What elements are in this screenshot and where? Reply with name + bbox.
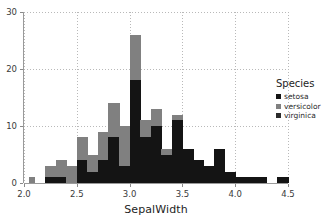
x-tick-mark: [288, 184, 289, 187]
x-tick-label: 4.0: [228, 190, 242, 199]
legend-item-label: virginica: [284, 112, 316, 120]
legend-item-label: versicolor: [284, 103, 321, 111]
legend-item-label: setosa: [284, 93, 309, 101]
y-tick-label: 10: [0, 122, 17, 131]
x-axis-label: SepalWidth: [24, 203, 288, 216]
x-tick-label: 3.0: [123, 190, 137, 199]
y-axis-line: [23, 12, 24, 183]
y-tick-label: 20: [0, 65, 17, 74]
x-tick-label: 3.5: [176, 190, 190, 199]
x-tick-mark: [182, 184, 183, 187]
legend-item-setosa[interactable]: setosa: [276, 93, 325, 101]
legend-swatch-icon: [276, 113, 281, 118]
x-tick-label: 2.0: [17, 190, 31, 199]
legend-items: setosaversicolorvirginica: [276, 93, 325, 120]
x-tick-label: 4.5: [281, 190, 295, 199]
x-tick-mark: [77, 184, 78, 187]
y-tick-mark: [20, 126, 23, 127]
x-tick-mark: [24, 184, 25, 187]
x-axis-line: [24, 183, 288, 184]
y-tick-mark: [20, 183, 23, 184]
y-tick-label: 30: [0, 8, 17, 17]
legend-swatch-icon: [276, 104, 281, 109]
x-tick-label: 2.5: [70, 190, 84, 199]
legend-title: Species: [276, 78, 325, 89]
y-tick-mark: [20, 69, 23, 70]
x-tick-mark: [235, 184, 236, 187]
legend: Species setosaversicolorvirginica: [276, 78, 325, 122]
x-tick-mark: [130, 184, 131, 187]
bar-segment-versicolor: [135, 35, 141, 81]
bar-segment-versicolor: [177, 115, 183, 121]
bar-segment-versicolor: [156, 109, 162, 126]
legend-swatch-icon: [276, 94, 281, 99]
y-tick-mark: [20, 12, 23, 13]
legend-item-virginica[interactable]: virginica: [276, 112, 325, 120]
y-tick-label: 0: [0, 179, 17, 188]
legend-item-versicolor[interactable]: versicolor: [276, 103, 325, 111]
bar-series-container: [24, 12, 288, 183]
plot-area: [24, 12, 288, 183]
histogram-figure: 0102030 2.02.53.03.54.04.5 SepalWidth Sp…: [0, 0, 325, 223]
